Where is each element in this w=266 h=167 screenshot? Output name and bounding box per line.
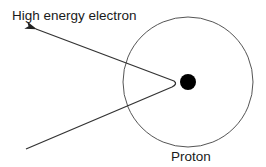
- electron-trajectory: [26, 29, 176, 149]
- electron-label: High energy electron: [12, 8, 137, 23]
- diagram-canvas: High energy electron Proton: [0, 0, 266, 167]
- proton-core: [180, 74, 196, 90]
- proton-label: Proton: [171, 149, 211, 164]
